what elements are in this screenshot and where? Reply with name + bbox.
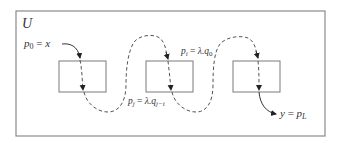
trajectory-diagram: U p0 = x pi = λ.q0 pj = λ.qj−i y = pL — [0, 0, 338, 143]
end-arrow — [259, 92, 276, 114]
region-box-2 — [146, 61, 193, 92]
region-box-3 — [233, 61, 280, 92]
path-segment-box-3 — [258, 61, 259, 90]
label-start: p0 = x — [23, 37, 50, 51]
path-segment-box-1 — [80, 60, 83, 90]
start-arrow — [62, 44, 80, 58]
path-segment-box-2 — [168, 61, 171, 90]
arrow-into-box-2 — [166, 52, 168, 59]
set-u-frame — [16, 11, 325, 136]
label-p-i: pi = λ.q0 — [180, 46, 213, 58]
label-p-j: pj = λ.qj−i — [127, 96, 165, 108]
label-end: y = pL — [279, 107, 307, 121]
set-label: U — [22, 16, 33, 31]
arrow-into-box-3 — [256, 51, 258, 58]
region-box-1 — [59, 61, 106, 92]
